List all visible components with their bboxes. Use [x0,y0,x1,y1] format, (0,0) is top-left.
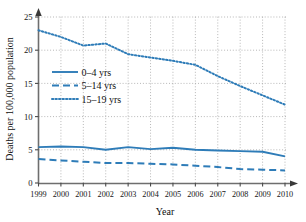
y-tick-label: 5 [28,145,32,155]
y-tick-label: 20 [24,45,33,55]
x-tick-label: 2009 [254,190,270,199]
y-tick-label: 15 [24,79,33,89]
x-tick-label: 1999 [30,190,46,199]
y-tick-label: 25 [24,12,33,22]
y-tick-label: 10 [24,112,33,122]
x-tick-label: 2000 [53,190,69,199]
x-tick-label: 2006 [187,190,203,199]
x-tick-label: 2005 [165,190,181,199]
legend-label: 5–14 yrs [82,80,117,91]
x-axis-title: Year [156,206,175,217]
x-tick-label: 2010 [277,190,293,199]
y-axis-title: Deaths per 100,000 population [4,37,15,160]
x-tick-label: 2004 [142,190,158,199]
line-chart: 0510152025 19992000200120022003200420052… [0,0,306,222]
x-tick-label: 2003 [120,190,136,199]
legend-label: 0–4 yrs [82,67,112,78]
chart-container: 0510152025 19992000200120022003200420052… [0,0,306,222]
x-tick-label: 2008 [232,190,248,199]
x-tick-label: 2007 [210,190,226,199]
legend-label: 15–19 yrs [82,94,122,105]
y-tick-label: 0 [28,178,32,188]
x-tick-label: 2001 [75,190,91,199]
x-tick-label: 2002 [98,190,114,199]
